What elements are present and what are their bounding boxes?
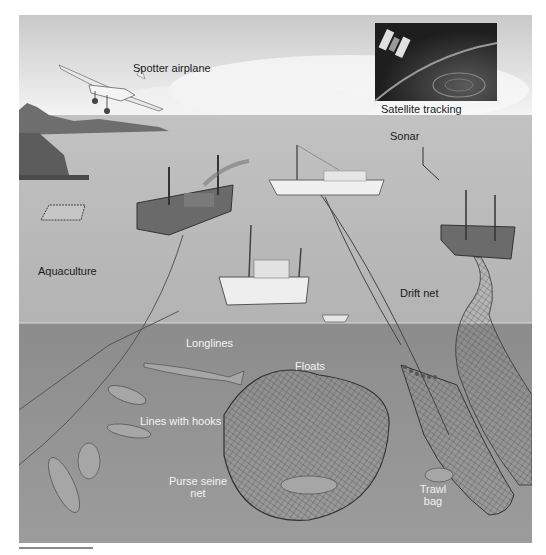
caption-rule — [19, 547, 93, 549]
label-purse-seine-net-line2: net — [168, 487, 228, 499]
label-drift-net: Drift net — [400, 287, 439, 299]
label-trawl-bag: Trawl bag — [417, 483, 449, 507]
label-trawl-bag-line1: Trawl — [417, 483, 449, 495]
label-aquaculture: Aquaculture — [38, 265, 97, 277]
satellite-tracking-image — [375, 23, 497, 101]
label-spotter-airplane: Spotter airplane — [133, 62, 211, 74]
label-trawl-bag-line2: bag — [417, 495, 449, 507]
label-lines-with-hooks: Lines with hooks — [140, 415, 221, 427]
label-sonar: Sonar — [390, 130, 419, 142]
label-purse-seine-net: Purse seine net — [168, 475, 228, 499]
fishing-methods-illustration: Spotter airplane Satellite tracking Sona… — [19, 15, 532, 543]
label-purse-seine-net-line1: Purse seine — [168, 475, 228, 487]
label-longlines: Longlines — [186, 337, 233, 349]
label-satellite-tracking: Satellite tracking — [381, 103, 462, 115]
label-floats: Floats — [295, 360, 325, 372]
